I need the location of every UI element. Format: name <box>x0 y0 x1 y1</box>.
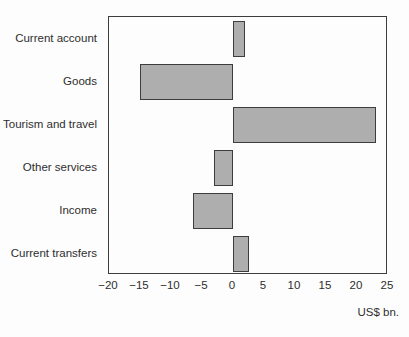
category-axis-labels: Current accountGoodsTourism and travelOt… <box>0 16 100 274</box>
category-label-other-services: Other services <box>23 160 97 174</box>
category-label-goods: Goods <box>63 74 97 88</box>
category-label-current-account: Current account <box>15 31 97 45</box>
x-tick-label: 25 <box>365 279 409 291</box>
x-axis-unit-label: US$ bn. <box>357 306 399 318</box>
bar-current-transfers <box>233 236 249 272</box>
bar-current-account <box>233 21 245 57</box>
category-label-income: Income <box>59 203 97 217</box>
bar-other-services <box>214 150 233 186</box>
plot-area <box>108 16 387 274</box>
bar-goods <box>140 64 233 100</box>
bar-tourism-and-travel <box>233 107 376 143</box>
category-label-tourism-and-travel: Tourism and travel <box>3 117 97 131</box>
category-label-current-transfers: Current transfers <box>11 246 97 260</box>
bar-chart-figure: Current accountGoodsTourism and travelOt… <box>0 0 409 337</box>
bar-income <box>193 193 233 229</box>
